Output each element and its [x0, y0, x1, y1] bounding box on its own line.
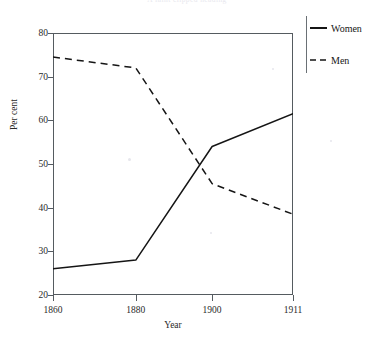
- legend-item-women[interactable]: Women: [310, 22, 362, 34]
- legend-label-men: Men: [331, 55, 349, 66]
- y-axis-tick-label: 80: [18, 28, 48, 38]
- scan-speck: [330, 140, 332, 142]
- x-axis-tick-mark: [212, 295, 213, 301]
- line-chart-figure: 20304050607080 1860188019001911 Per cent…: [0, 0, 374, 343]
- series-canvas: [53, 33, 293, 295]
- solid-line-icon: [310, 24, 327, 32]
- y-axis-label: Per cent: [9, 99, 19, 130]
- y-axis-tick-label: 30: [18, 246, 48, 256]
- legend-divider: [306, 16, 307, 73]
- series-line-women: [53, 114, 293, 269]
- x-axis-tick-label: 1911: [273, 305, 313, 316]
- y-axis-tick-label: 40: [18, 203, 48, 213]
- legend: Women Men: [306, 16, 374, 76]
- dashed-line-icon: [310, 56, 327, 64]
- x-axis-tick-mark: [53, 295, 54, 301]
- x-axis-tick-mark: [293, 295, 294, 301]
- legend-label-women: Women: [331, 23, 362, 34]
- x-axis-label: Year: [53, 320, 293, 330]
- x-axis-tick-mark: [136, 295, 137, 301]
- x-axis-tick-label: 1880: [116, 305, 156, 316]
- x-axis-tick-label: 1900: [192, 305, 232, 316]
- y-axis-tick-label: 20: [18, 290, 48, 300]
- y-axis-tick-label: 70: [18, 72, 48, 82]
- series-line-men: [53, 57, 293, 214]
- y-axis-tick-label: 60: [18, 115, 48, 125]
- y-axis-tick-label: 50: [18, 159, 48, 169]
- legend-item-men[interactable]: Men: [310, 54, 349, 66]
- x-axis-tick-label: 1860: [33, 305, 73, 316]
